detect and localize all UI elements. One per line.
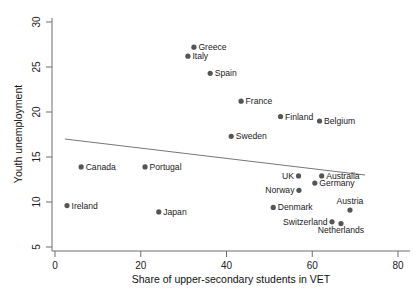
point-marker[interactable] <box>208 71 213 76</box>
x-tick-label: 60 <box>307 260 319 271</box>
y-tick-label: 15 <box>31 151 42 163</box>
y-axis-title: Youth unemployment <box>12 85 24 183</box>
point-marker[interactable] <box>156 209 161 214</box>
x-axis-title: Share of upper-secondary students in VET <box>132 273 331 285</box>
point-label: Canada <box>86 162 116 172</box>
point-label: Norway <box>265 185 295 195</box>
data-point[interactable]: Germany <box>312 178 355 188</box>
point-marker[interactable] <box>191 45 196 50</box>
point-label: Spain <box>215 68 237 78</box>
y-tick-label: 20 <box>31 106 42 118</box>
point-label: Japan <box>163 207 187 217</box>
y-tick-label: 30 <box>31 16 42 28</box>
point-label: Portugal <box>150 162 182 172</box>
y-tick-label: 25 <box>31 61 42 73</box>
point-label: UK <box>282 171 294 181</box>
point-marker[interactable] <box>278 114 283 119</box>
x-tick-label: 20 <box>135 260 147 271</box>
y-tick-label: 5 <box>31 244 42 250</box>
point-label: Finland <box>285 112 313 122</box>
point-marker[interactable] <box>296 188 301 193</box>
point-marker[interactable] <box>79 164 84 169</box>
x-tick-label: 40 <box>221 260 233 271</box>
x-tick-label: 0 <box>52 260 58 271</box>
point-label: Germany <box>319 178 355 188</box>
point-marker[interactable] <box>142 164 147 169</box>
point-label: Austria <box>337 196 364 206</box>
point-marker[interactable] <box>64 203 69 208</box>
point-label: Sweden <box>236 131 267 141</box>
point-label: Italy <box>192 51 208 61</box>
point-label: Ireland <box>72 201 98 211</box>
point-marker[interactable] <box>185 54 190 59</box>
point-marker[interactable] <box>271 205 276 210</box>
point-label: France <box>246 96 273 106</box>
point-label: Netherlands <box>318 225 364 235</box>
point-marker[interactable] <box>347 208 352 213</box>
y-tick-label: 10 <box>31 196 42 208</box>
scatter-plot-figure: GreeceItalySpainFranceFinlandBelgiumSwed… <box>0 0 419 302</box>
data-point[interactable]: Denmark <box>271 202 314 212</box>
point-marker[interactable] <box>238 99 243 104</box>
point-marker[interactable] <box>229 134 234 139</box>
point-marker[interactable] <box>317 118 322 123</box>
point-marker[interactable] <box>312 181 317 186</box>
point-label: Denmark <box>278 202 314 212</box>
chart-canvas: GreeceItalySpainFranceFinlandBelgiumSwed… <box>0 0 419 302</box>
point-marker[interactable] <box>296 173 301 178</box>
x-tick-label: 80 <box>392 260 404 271</box>
point-label: Belgium <box>324 116 355 126</box>
